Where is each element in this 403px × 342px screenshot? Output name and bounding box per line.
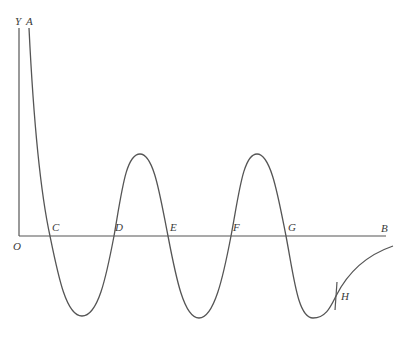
label-g: G [288,222,296,233]
label-b: B [381,223,388,234]
label-e: E [170,222,177,233]
oscillating-curve [29,28,393,318]
label-y: Y [15,16,21,27]
label-c: C [52,222,59,233]
label-o: O [13,241,21,252]
curve-figure: Y A O C D E F G B H [0,0,403,342]
label-f: F [233,222,240,233]
label-h: H [341,291,349,302]
label-a: A [26,16,33,27]
label-d: D [115,222,123,233]
